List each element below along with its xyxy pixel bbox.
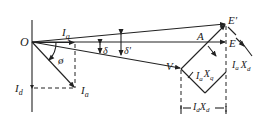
phasor-diagram: O Iq Id Ia ø δ δ' V A E E' IaXq IaXd IdX… bbox=[0, 0, 275, 128]
label-e-prime: E' bbox=[227, 14, 238, 26]
label-ia-xq: IaXq bbox=[195, 68, 214, 83]
label-id-xd: IdXd bbox=[192, 101, 210, 114]
label-origin: O bbox=[20, 35, 29, 49]
label-a: A bbox=[196, 30, 204, 42]
iaxd-arrow bbox=[236, 38, 244, 46]
iaxd-ext-1 bbox=[228, 27, 236, 35]
label-delta-prime: δ' bbox=[124, 45, 132, 56]
label-delta: δ bbox=[103, 45, 108, 56]
iaxq-dim-b bbox=[208, 46, 216, 56]
label-v: V bbox=[166, 60, 174, 72]
iaxd-dim bbox=[240, 40, 252, 56]
label-e: E bbox=[228, 37, 236, 49]
iaxq-dim-a bbox=[188, 72, 193, 78]
id-arrowhead bbox=[30, 85, 34, 89]
label-phi: ø bbox=[57, 54, 64, 66]
label-ia: Ia bbox=[80, 84, 89, 99]
label-id: Id bbox=[14, 82, 24, 97]
label-ia-xd: IaXd bbox=[231, 59, 251, 73]
